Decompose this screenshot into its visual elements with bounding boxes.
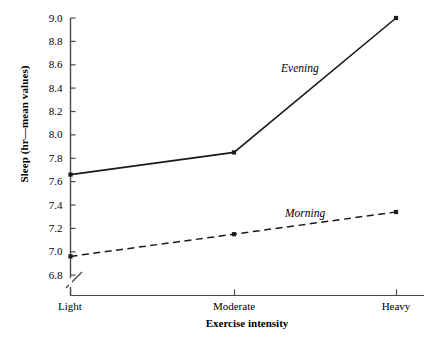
y-tick-label: 9.0 bbox=[29, 13, 63, 24]
y-tick-label: 7.8 bbox=[29, 153, 63, 164]
y-tick-label: 7.4 bbox=[29, 200, 63, 211]
y-tick-label: 8.0 bbox=[29, 129, 63, 140]
y-tick-label: 8.2 bbox=[29, 106, 63, 117]
x-tick-label: Moderate bbox=[184, 301, 284, 312]
y-tick-label: 7.2 bbox=[29, 223, 63, 234]
y-tick-marks bbox=[71, 18, 76, 275]
series-label-morning: Morning bbox=[285, 207, 325, 219]
data-point-marker bbox=[394, 210, 398, 214]
data-point-marker bbox=[232, 232, 236, 236]
data-point-marker bbox=[68, 254, 72, 258]
data-point-marker bbox=[232, 150, 236, 154]
y-tick-label: 7.6 bbox=[29, 176, 63, 187]
y-tick-label: 6.8 bbox=[29, 270, 63, 281]
chart-canvas bbox=[0, 0, 432, 337]
series-layer bbox=[68, 16, 398, 259]
y-tick-label: 8.8 bbox=[29, 36, 63, 47]
y-tick-label: 8.6 bbox=[29, 59, 63, 70]
y-tick-label: 7.0 bbox=[29, 246, 63, 257]
data-point-marker bbox=[68, 172, 72, 176]
x-axis-title: Exercise intensity bbox=[70, 317, 424, 329]
data-point-marker bbox=[394, 16, 398, 20]
y-tick-label: 8.4 bbox=[29, 83, 63, 94]
y-axis-title: Sleep (hr—mean values) bbox=[18, 14, 30, 234]
x-tick-marks bbox=[71, 290, 397, 296]
series-label-evening: Evening bbox=[281, 62, 319, 74]
line-chart: 9.08.88.68.48.28.07.87.67.47.27.06.8 Lig… bbox=[0, 0, 432, 337]
x-tick-label: Heavy bbox=[346, 301, 432, 312]
x-tick-label: Light bbox=[20, 301, 120, 312]
